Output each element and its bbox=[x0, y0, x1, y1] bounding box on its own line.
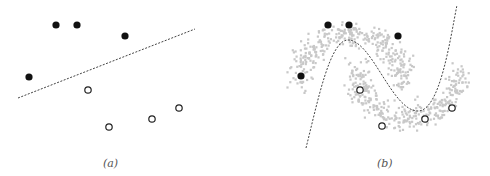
unlabeled-point bbox=[376, 55, 378, 57]
unlabeled-point bbox=[364, 96, 366, 98]
unlabeled-point bbox=[315, 62, 317, 64]
unlabeled-point bbox=[292, 49, 294, 51]
unlabeled-point bbox=[383, 107, 385, 109]
unlabeled-point bbox=[400, 58, 402, 60]
unlabeled-point bbox=[429, 112, 431, 114]
unlabeled-point bbox=[462, 74, 464, 76]
unlabeled-point bbox=[289, 81, 291, 83]
unlabeled-point bbox=[339, 37, 341, 39]
unlabeled-point bbox=[366, 35, 368, 37]
unlabeled-point bbox=[396, 53, 398, 55]
unlabeled-point bbox=[348, 37, 350, 39]
unlabeled-point bbox=[390, 69, 392, 71]
unlabeled-point bbox=[295, 79, 297, 81]
unlabeled-point bbox=[372, 106, 374, 108]
unlabeled-point bbox=[452, 62, 454, 64]
unlabeled-point bbox=[368, 40, 370, 42]
unlabeled-point bbox=[448, 76, 450, 78]
unlabeled-point bbox=[388, 52, 390, 54]
unlabeled-point bbox=[357, 36, 359, 38]
unlabeled-point bbox=[295, 72, 297, 74]
unlabeled-point bbox=[400, 49, 402, 51]
unlabeled-point bbox=[365, 58, 367, 60]
unlabeled-point bbox=[305, 63, 307, 65]
unlabeled-point bbox=[302, 57, 304, 59]
unlabeled-point bbox=[306, 79, 308, 81]
unlabeled-point bbox=[387, 73, 389, 75]
unlabeled-point bbox=[341, 21, 343, 23]
unlabeled-point bbox=[411, 117, 413, 119]
unlabeled-point bbox=[338, 32, 340, 34]
unlabeled-point bbox=[385, 119, 387, 121]
unlabeled-point bbox=[348, 31, 350, 33]
unlabeled-point bbox=[435, 112, 437, 114]
unlabeled-point bbox=[352, 74, 354, 76]
unlabeled-point bbox=[365, 84, 367, 86]
unlabeled-point bbox=[307, 33, 309, 35]
unlabeled-point bbox=[351, 35, 353, 37]
unlabeled-point bbox=[376, 50, 378, 52]
unlabeled-point bbox=[380, 42, 382, 44]
unlabeled-point bbox=[335, 36, 337, 38]
unlabeled-point bbox=[394, 59, 396, 61]
unlabeled-point bbox=[359, 31, 361, 33]
unlabeled-point bbox=[344, 38, 346, 40]
unlabeled-point bbox=[418, 113, 420, 115]
unlabeled-point bbox=[465, 81, 467, 83]
unlabeled-point bbox=[358, 47, 360, 49]
unlabeled-point bbox=[404, 50, 406, 52]
unlabeled-point bbox=[402, 66, 404, 68]
unlabeled-point bbox=[355, 29, 357, 31]
labeled-negative-point bbox=[149, 116, 155, 122]
unlabeled-point bbox=[358, 101, 360, 103]
unlabeled-point bbox=[444, 99, 446, 101]
unlabeled-point bbox=[395, 50, 397, 52]
unlabeled-point bbox=[300, 40, 302, 42]
unlabeled-point bbox=[306, 71, 308, 73]
labeled-positive-point bbox=[297, 72, 304, 79]
unlabeled-point bbox=[344, 57, 346, 59]
unlabeled-point bbox=[361, 94, 363, 96]
unlabeled-point bbox=[449, 100, 451, 102]
unlabeled-point bbox=[388, 106, 390, 108]
unlabeled-point bbox=[391, 64, 393, 66]
unlabeled-point bbox=[458, 82, 460, 84]
unlabeled-point bbox=[383, 36, 385, 38]
unlabeled-point bbox=[415, 107, 417, 109]
unlabeled-point bbox=[409, 126, 411, 128]
unlabeled-point bbox=[300, 57, 302, 59]
unlabeled-point bbox=[357, 75, 359, 77]
unlabeled-point bbox=[387, 116, 389, 118]
unlabeled-point bbox=[454, 90, 456, 92]
unlabeled-point bbox=[402, 71, 404, 73]
unlabeled-point bbox=[310, 69, 312, 71]
unlabeled-point bbox=[325, 44, 327, 46]
unlabeled-point bbox=[300, 49, 302, 51]
unlabeled-point bbox=[447, 110, 449, 112]
unlabeled-point bbox=[315, 46, 317, 48]
unlabeled-point bbox=[451, 89, 453, 91]
unlabeled-point bbox=[461, 82, 463, 84]
unlabeled-point bbox=[305, 52, 307, 54]
unlabeled-point bbox=[333, 26, 335, 28]
unlabeled-point bbox=[307, 42, 309, 44]
labeled-positive-point bbox=[73, 21, 80, 28]
unlabeled-point bbox=[357, 94, 359, 96]
unlabeled-point bbox=[439, 104, 441, 106]
unlabeled-point bbox=[384, 39, 386, 41]
unlabeled-point bbox=[342, 43, 344, 45]
unlabeled-point bbox=[368, 112, 370, 114]
unlabeled-point bbox=[381, 50, 383, 52]
unlabeled-point bbox=[380, 106, 382, 108]
unlabeled-point bbox=[353, 96, 355, 98]
unlabeled-point bbox=[367, 86, 369, 88]
unlabeled-point bbox=[406, 114, 408, 116]
unlabeled-point bbox=[331, 29, 333, 31]
unlabeled-point bbox=[385, 46, 387, 48]
unlabeled-point bbox=[455, 98, 457, 100]
labeled-positive-point bbox=[345, 21, 352, 28]
unlabeled-point bbox=[417, 104, 419, 106]
unlabeled-point bbox=[322, 54, 324, 56]
unlabeled-point bbox=[361, 102, 363, 104]
unlabeled-point bbox=[307, 38, 309, 40]
